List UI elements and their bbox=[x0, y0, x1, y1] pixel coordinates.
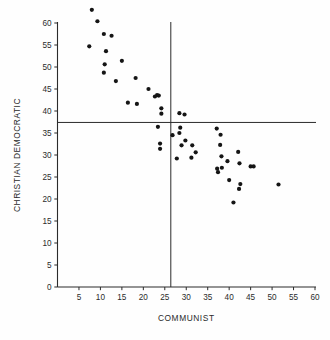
data-point bbox=[159, 106, 163, 110]
x-tick-label: 5 bbox=[77, 293, 82, 302]
scatter-plot-figure: 0510152025303540455055605101520253035404… bbox=[0, 0, 330, 340]
x-tick-label: 35 bbox=[203, 293, 213, 302]
data-point bbox=[146, 87, 150, 91]
x-tick-label: 50 bbox=[268, 293, 278, 302]
data-point bbox=[156, 125, 160, 129]
data-point bbox=[220, 166, 224, 170]
data-point bbox=[231, 200, 235, 204]
x-axis-title: COMMUNIST bbox=[158, 313, 215, 323]
data-point bbox=[182, 112, 186, 116]
x-tick-label: 20 bbox=[139, 293, 149, 302]
y-tick-label: 55 bbox=[42, 41, 52, 50]
data-point bbox=[190, 143, 194, 147]
data-point bbox=[177, 131, 181, 135]
data-point bbox=[227, 178, 231, 182]
x-tick-label: 60 bbox=[310, 293, 320, 302]
data-point bbox=[194, 150, 198, 154]
data-point bbox=[109, 34, 113, 38]
data-point bbox=[215, 167, 219, 171]
y-tick-label: 30 bbox=[42, 151, 52, 160]
y-tick-label: 35 bbox=[42, 129, 52, 138]
data-point bbox=[252, 164, 256, 168]
plot-canvas: 0510152025303540455055605101520253035404… bbox=[0, 0, 330, 340]
x-tick-label: 10 bbox=[96, 293, 106, 302]
data-point bbox=[276, 182, 280, 186]
data-point bbox=[158, 147, 162, 151]
x-tick-label: 45 bbox=[246, 293, 256, 302]
y-tick-label: 60 bbox=[42, 19, 52, 28]
y-tick-label: 0 bbox=[47, 283, 52, 292]
data-point bbox=[218, 143, 222, 147]
y-tick-label: 5 bbox=[47, 261, 52, 270]
data-point bbox=[95, 19, 99, 23]
data-point bbox=[158, 141, 162, 145]
data-point bbox=[225, 159, 229, 163]
data-point bbox=[90, 8, 94, 12]
data-point bbox=[120, 59, 124, 63]
data-point bbox=[153, 94, 157, 98]
x-tick-label: 55 bbox=[289, 293, 299, 302]
axis-labels-group: 0510152025303540455055605101520253035404… bbox=[12, 19, 320, 323]
data-point bbox=[114, 79, 118, 83]
data-point bbox=[159, 112, 163, 116]
data-point bbox=[189, 156, 193, 160]
data-point bbox=[126, 101, 130, 105]
y-tick-label: 45 bbox=[42, 85, 52, 94]
x-tick-label: 25 bbox=[160, 293, 170, 302]
y-tick-label: 15 bbox=[42, 217, 52, 226]
x-tick-label: 15 bbox=[117, 293, 127, 302]
reference-lines-group bbox=[58, 22, 317, 287]
x-tick-label: 40 bbox=[225, 293, 235, 302]
data-point bbox=[218, 133, 222, 137]
data-point bbox=[238, 182, 242, 186]
y-tick-label: 25 bbox=[42, 173, 52, 182]
data-point bbox=[219, 154, 223, 158]
x-tick-label: 30 bbox=[182, 293, 192, 302]
data-point bbox=[87, 44, 91, 48]
y-tick-label: 20 bbox=[42, 195, 52, 204]
y-tick-label: 50 bbox=[42, 63, 52, 72]
data-point bbox=[157, 94, 161, 98]
data-points-group bbox=[87, 8, 280, 205]
y-tick-label: 10 bbox=[42, 239, 52, 248]
data-point bbox=[237, 161, 241, 165]
data-point bbox=[216, 170, 220, 174]
data-point bbox=[103, 62, 107, 66]
data-point bbox=[102, 71, 106, 75]
data-point bbox=[134, 76, 138, 80]
data-point bbox=[237, 187, 241, 191]
data-point bbox=[177, 111, 181, 115]
y-axis-title: CHRISTIAN DEMOCRATIC bbox=[12, 98, 22, 212]
data-point bbox=[104, 49, 108, 53]
data-point bbox=[183, 138, 187, 142]
data-point bbox=[135, 102, 139, 106]
data-point bbox=[178, 126, 182, 130]
data-point bbox=[170, 133, 174, 137]
data-point bbox=[236, 150, 240, 154]
data-point bbox=[102, 32, 106, 36]
data-point bbox=[215, 127, 219, 131]
data-point bbox=[179, 143, 183, 147]
data-point bbox=[175, 156, 179, 160]
y-tick-label: 40 bbox=[42, 107, 52, 116]
axes-group bbox=[54, 22, 316, 290]
